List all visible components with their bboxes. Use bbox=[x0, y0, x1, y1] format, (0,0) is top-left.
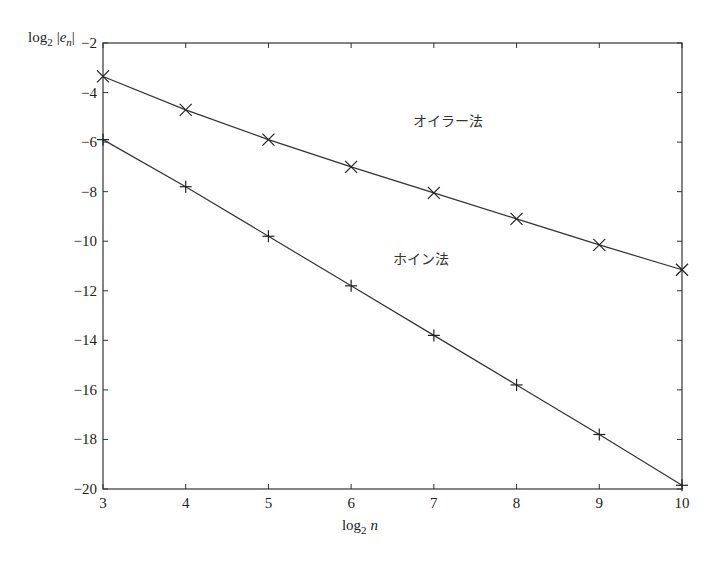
x-tick-label: 7 bbox=[430, 495, 438, 511]
y-axis-label: log2|en| bbox=[28, 29, 75, 48]
y-tick-label: −6 bbox=[81, 134, 97, 150]
y-axis-ticks: −2−4−6−8−10−12−14−16−18−20 bbox=[74, 35, 682, 497]
y-tick-label: −18 bbox=[74, 431, 97, 447]
series-euler: オイラー法 bbox=[97, 70, 688, 275]
y-tick-label: −16 bbox=[74, 382, 98, 398]
y-tick-label: −14 bbox=[74, 332, 98, 348]
y-tick-label: −4 bbox=[81, 85, 97, 101]
svg-text:log2n: log2n bbox=[342, 517, 378, 536]
x-tick-label: 6 bbox=[347, 495, 355, 511]
y-tick-label: −12 bbox=[74, 283, 97, 299]
series-label: オイラー法 bbox=[413, 113, 483, 129]
x-tick-label: 4 bbox=[182, 495, 190, 511]
x-tick-label: 8 bbox=[513, 495, 521, 511]
x-tick-label: 9 bbox=[596, 495, 604, 511]
svg-text:log2|en|: log2|en| bbox=[28, 29, 75, 48]
x-tick-label: 10 bbox=[675, 495, 690, 511]
x-tick-label: 3 bbox=[99, 495, 107, 511]
convergence-chart: log2|en| 345678910 −2−4−6−8−10−12−14−16−… bbox=[0, 0, 720, 567]
y-tick-label: −10 bbox=[74, 233, 97, 249]
y-tick-label: −20 bbox=[74, 481, 97, 497]
y-tick-label: −8 bbox=[81, 184, 97, 200]
data-series: オイラー法ホイン法 bbox=[97, 70, 688, 491]
series-heun: ホイン法 bbox=[97, 134, 688, 492]
x-axis-ticks: 345678910 bbox=[99, 43, 689, 511]
y-tick-label: −2 bbox=[81, 35, 97, 51]
series-label: ホイン法 bbox=[393, 251, 449, 267]
x-axis-label: log2n bbox=[342, 517, 378, 536]
x-tick-label: 5 bbox=[265, 495, 273, 511]
